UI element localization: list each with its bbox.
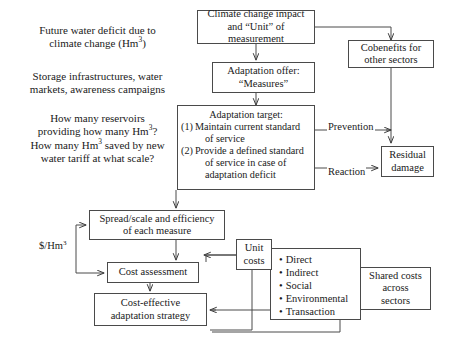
box-cost-assessment[interactable]: Cost assessment	[107, 262, 199, 283]
note-reservoirs: How many reservoirs providing how many H…	[12, 112, 183, 166]
note-storage-line1: Storage infrastructures, water	[12, 70, 183, 83]
bullet-icon: •	[279, 293, 283, 304]
box-adaptation-target-heading: Adaptation target:	[181, 109, 311, 121]
item2-line2: of service in case of	[195, 157, 304, 169]
box-cost-assessment-line1: Cost assessment	[110, 266, 196, 278]
cost-type-transaction: •Transaction	[279, 305, 360, 318]
note-reservoirs-line1: How many reservoirs	[12, 112, 183, 125]
note-storage: Storage infrastructures, water markets, …	[12, 70, 183, 97]
box-residual-damage[interactable]: Residual damage	[381, 146, 434, 177]
box-cobenefits-other-sectors[interactable]: Cobenefits for other sectors	[348, 40, 434, 68]
box-adaptation-target[interactable]: Adaptation target: (1) Maintain current …	[177, 105, 315, 190]
box-shared-costs-across-sectors[interactable]: Shared costs across sectors	[360, 267, 431, 310]
box-climate-change-impact-line1: Climate change impact	[200, 8, 312, 20]
item2-line3: adaptation deficit	[195, 169, 304, 181]
edge-label-prevention: Prevention	[327, 121, 375, 132]
note-future-deficit-line2: climate change (Hm3)	[16, 37, 179, 50]
box-cost-effective-line2: adaptation strategy	[97, 310, 204, 322]
cost-type-direct: •Direct	[279, 253, 360, 266]
cost-type-social: •Social	[279, 279, 360, 292]
item1-line2: of service	[195, 133, 300, 145]
box-unit-costs-line2: costs	[239, 255, 269, 267]
box-residual-damage-line1: Residual	[384, 149, 431, 161]
bullet-icon: •	[279, 306, 283, 317]
note-future-deficit: Future water deficit due to climate chan…	[16, 24, 179, 51]
box-cobenefits-line1: Cobenefits for	[351, 42, 431, 54]
box-spread-scale-line1: Spread/scale and efficiency	[92, 213, 222, 225]
box-climate-change-impact[interactable]: Climate change impact and “Unit” of meas…	[197, 10, 315, 44]
box-cost-effective-line1: Cost-effective	[97, 297, 204, 309]
box-climate-change-impact-line2: and “Unit” of measurement	[200, 21, 312, 46]
box-shared-costs-line2: across	[363, 282, 428, 294]
item1-line1: Maintain current standard	[195, 121, 300, 132]
box-shared-costs-line1: Shared costs	[363, 270, 428, 282]
note-storage-line2: markets, awareness campaigns	[12, 83, 183, 96]
box-adaptation-offer[interactable]: Adaptation offer: “Measures”	[212, 62, 315, 93]
box-cost-types[interactable]: •Direct •Indirect •Social •Environmental…	[270, 248, 361, 320]
box-residual-damage-line2: damage	[384, 162, 431, 174]
item1-number: (1)	[181, 121, 193, 145]
box-cobenefits-line2: other sectors	[351, 54, 431, 66]
bullet-icon: •	[279, 267, 283, 278]
box-unit-costs[interactable]: Unit costs	[236, 239, 272, 270]
box-spread-scale-line2: of each measure	[92, 225, 222, 237]
item2-line1: Provide a defined standard	[195, 145, 304, 156]
diagram-canvas: Future water deficit due to climate chan…	[0, 0, 457, 338]
box-shared-costs-line3: sectors	[363, 295, 428, 307]
bullet-icon: •	[279, 280, 283, 291]
cost-type-environmental: •Environmental	[279, 292, 360, 305]
box-adaptation-target-item2: (2) Provide a defined standard of servic…	[181, 145, 311, 181]
box-cost-effective-adaptation-strategy[interactable]: Cost-effective adaptation strategy	[94, 293, 207, 326]
note-reservoirs-line3: How many Hm3 saved by new	[12, 139, 183, 152]
box-spread-scale-efficiency[interactable]: Spread/scale and efficiency of each meas…	[89, 210, 225, 240]
bullet-icon: •	[279, 254, 283, 265]
edge-label-reaction: Reaction	[327, 166, 366, 177]
box-adaptation-offer-line1: Adaptation offer:	[215, 65, 312, 77]
cost-type-indirect: •Indirect	[279, 266, 360, 279]
box-adaptation-target-item1: (1) Maintain current standard of service	[181, 121, 311, 145]
box-unit-costs-line1: Unit	[239, 242, 269, 254]
box-adaptation-offer-line2: “Measures”	[215, 78, 312, 90]
item2-number: (2)	[181, 145, 193, 181]
note-reservoirs-line4: water tariff at what scale?	[12, 152, 183, 165]
note-future-deficit-line1: Future water deficit due to	[16, 24, 179, 37]
edge-label-unit-rate: $/Hm3	[38, 240, 67, 251]
